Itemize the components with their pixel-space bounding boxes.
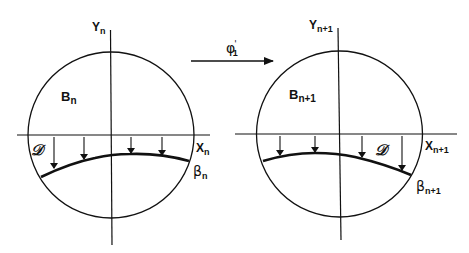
right-region-label: Bn+1 (289, 87, 316, 104)
right-beta-label: βn+1 (416, 178, 441, 196)
left-y-axis (111, 30, 113, 245)
left-x-label: Xn (196, 141, 210, 157)
diagram-canvas: Yn Bn 𝒟 Xn βn φ'1 Yn+1 Bn+1 𝒟 Xn+1 βn+1 (0, 0, 469, 253)
left-beta-curve (41, 154, 189, 177)
map-arrow-group: φ'1 (191, 39, 273, 61)
right-domain-label: 𝒟 (375, 141, 390, 159)
left-panel: Yn Bn 𝒟 Xn βn (17, 20, 210, 245)
left-y-label: Yn (92, 20, 106, 36)
right-panel: Yn+1 Bn+1 𝒟 Xn+1 βn+1 (235, 18, 457, 240)
left-arrows (54, 137, 162, 168)
map-label: φ'1 (226, 39, 238, 58)
right-y-label: Yn+1 (309, 18, 333, 34)
right-x-label: Xn+1 (425, 139, 449, 155)
right-beta-curve (263, 153, 411, 175)
left-domain-label: 𝒟 (31, 141, 46, 159)
left-beta-label: βn (193, 163, 207, 181)
left-region-label: Bn (61, 89, 77, 106)
